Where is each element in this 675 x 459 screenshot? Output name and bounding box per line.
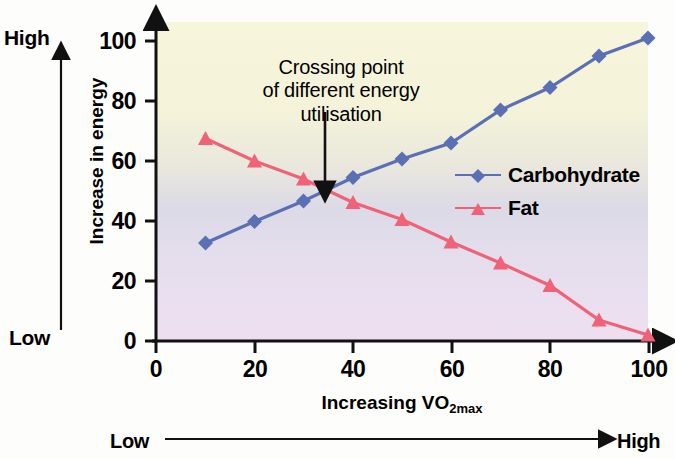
triangle-marker-icon [471, 202, 485, 216]
x-axis-title-main: Increasing VO [321, 392, 449, 413]
legend-item-carbohydrate: Carbohydrate [455, 158, 645, 191]
annotation-line-3: utilisation [233, 103, 449, 126]
x-tick-label-20: 20 [232, 356, 278, 383]
legend-item-fat: Fat [455, 191, 645, 224]
x-axis-ticks [156, 341, 649, 353]
y-scale-high-label: High [4, 26, 49, 50]
legend-swatch-fat [455, 200, 501, 216]
x-tick-label-60: 60 [429, 356, 475, 383]
annotation-line-1: Crossing point [233, 56, 449, 79]
chart-figure: 100 80 60 40 20 0 0 20 40 60 80 100 Incr… [0, 0, 675, 459]
crossing-point-annotation: Crossing point of different energy utili… [233, 56, 449, 126]
x-axis-title: Increasing VO2max [156, 392, 648, 414]
x-tick-label-100: 100 [626, 356, 672, 383]
y-tick-label-0: 0 [90, 328, 136, 355]
annotation-line-2: of different energy [233, 79, 449, 102]
x-tick-label-40: 40 [330, 356, 376, 383]
y-axis-title: Increase in energy [86, 51, 108, 271]
y-scale-low-label: Low [9, 326, 50, 350]
x-scale-high-label: High [617, 430, 660, 453]
x-tick-label-0: 0 [133, 356, 179, 383]
diamond-marker-icon [471, 169, 485, 183]
legend-label-fat: Fat [508, 196, 538, 220]
x-scale-low-label: Low [110, 430, 149, 453]
y-tick-label-20: 20 [90, 268, 136, 295]
chart-legend: Carbohydrate Fat [455, 158, 645, 224]
legend-swatch-carbohydrate [455, 167, 501, 183]
legend-label-carbohydrate: Carbohydrate [508, 163, 640, 187]
x-axis-title-subscript: 2max [449, 401, 482, 416]
x-tick-label-80: 80 [527, 356, 573, 383]
